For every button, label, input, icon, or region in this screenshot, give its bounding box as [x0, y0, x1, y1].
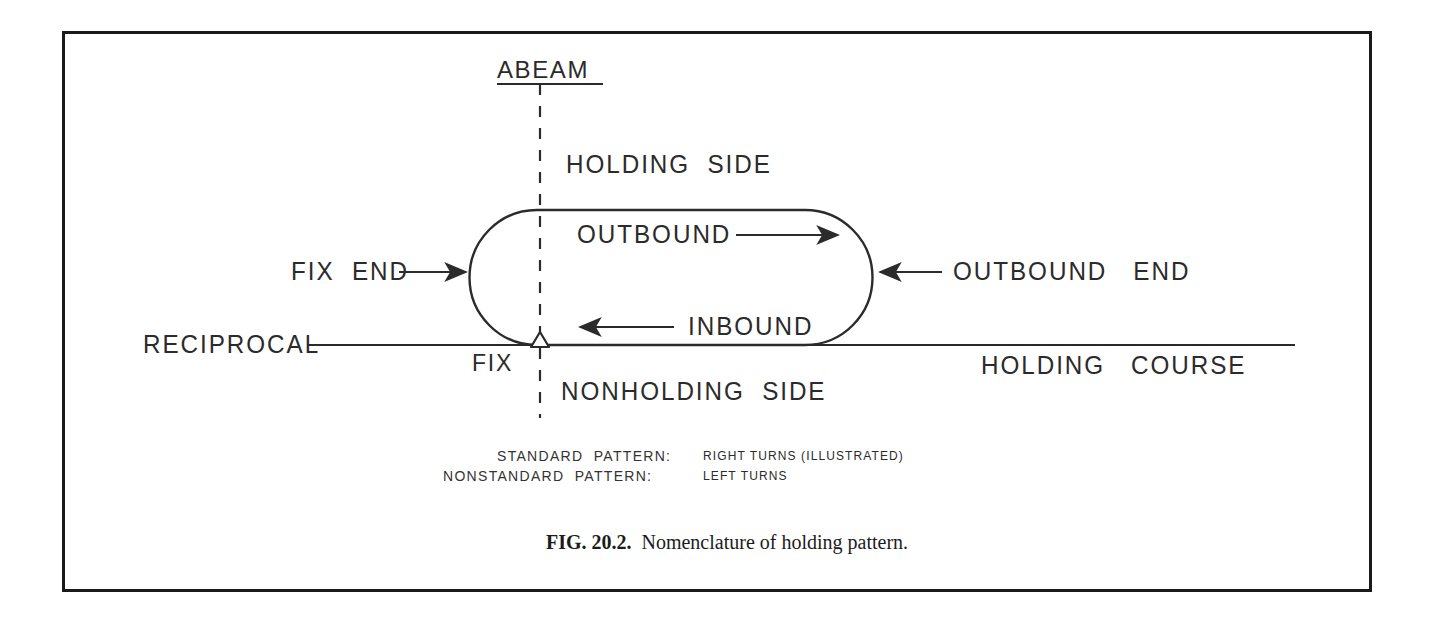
standard-pattern-value: RIGHT TURNS (ILLUSTRATED) — [703, 450, 904, 462]
outbound-end-label: OUTBOUND END — [953, 259, 1190, 284]
figure-root: ABEAM HOLDING SIDE OUTBOUND INBOUND FIX … — [0, 0, 1434, 624]
nonstandard-pattern-value: LEFT TURNS — [703, 470, 788, 482]
figure-caption: FIG. 20.2. Nomenclature of holding patte… — [0, 508, 1434, 577]
inbound-label: INBOUND — [688, 314, 813, 339]
nonholding-side-label: NONHOLDING SIDE — [561, 379, 826, 404]
abeam-label: ABEAM — [497, 58, 589, 82]
reciprocal-label: RECIPROCAL — [143, 332, 320, 357]
holding-side-label: HOLDING SIDE — [566, 152, 772, 177]
figure-caption-text: Nomenclature of holding pattern. — [641, 531, 908, 553]
nonstandard-pattern-term: NONSTANDARD PATTERN: — [443, 469, 652, 483]
figure-caption-number: FIG. 20.2. — [546, 531, 632, 553]
standard-pattern-term: STANDARD PATTERN: — [497, 449, 671, 463]
holding-course-label: HOLDING COURSE — [981, 353, 1246, 378]
fix-end-label: FIX END — [291, 259, 409, 284]
fix-label: FIX — [472, 352, 513, 375]
outbound-label: OUTBOUND — [577, 222, 731, 247]
